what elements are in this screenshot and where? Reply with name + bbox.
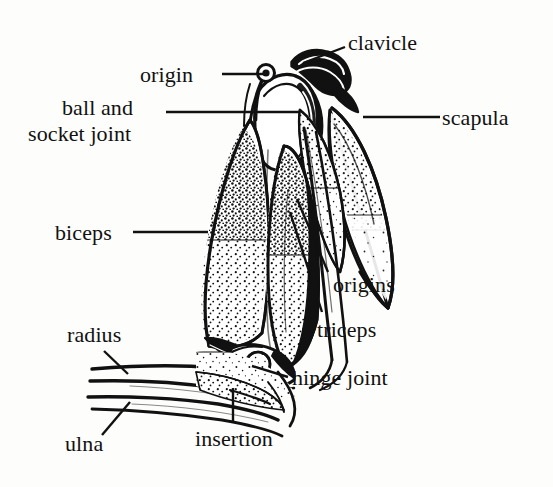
label-origins: origins: [333, 272, 395, 297]
label-socket-joint: socket joint: [28, 121, 131, 147]
label-scapula: scapula: [442, 105, 509, 130]
label-radius: radius: [67, 322, 121, 347]
label-biceps: biceps: [55, 220, 112, 245]
label-hinge-joint: hinge joint: [292, 365, 388, 390]
label-origin: origin: [140, 62, 193, 87]
anatomy-figure: clavicle origin scapula ball and socket …: [0, 0, 553, 487]
label-clavicle: clavicle: [348, 30, 417, 55]
label-ulna: ulna: [65, 431, 103, 456]
label-triceps: triceps: [317, 317, 376, 342]
label-insertion: insertion: [195, 426, 273, 451]
label-ball-and: ball and: [62, 95, 133, 121]
